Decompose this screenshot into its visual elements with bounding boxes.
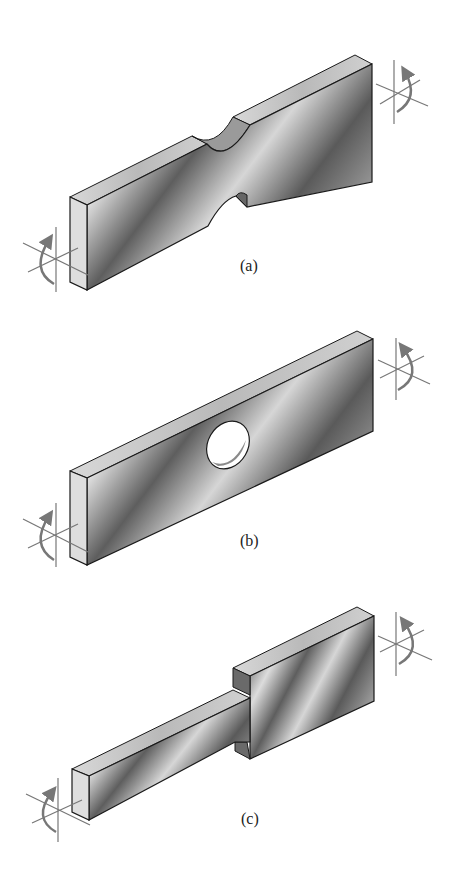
bending-moment-arrow-icon bbox=[376, 60, 428, 124]
panel-b-label: (b) bbox=[240, 532, 259, 550]
panel-c-label: (c) bbox=[241, 810, 259, 828]
side-face bbox=[70, 471, 87, 565]
panel-c-bar bbox=[72, 607, 374, 820]
panel-a-label: (a) bbox=[240, 257, 258, 275]
side-face bbox=[70, 197, 87, 290]
side-face bbox=[72, 769, 89, 820]
bottom-notch bbox=[236, 193, 247, 207]
bending-moment-arrow-icon bbox=[378, 338, 430, 400]
panel-a-bar bbox=[70, 55, 372, 290]
bending-moment-arrow-icon bbox=[378, 612, 432, 676]
figure-canvas bbox=[0, 0, 454, 890]
shoulder-face bbox=[235, 742, 250, 759]
panel-b-bar bbox=[70, 331, 373, 565]
